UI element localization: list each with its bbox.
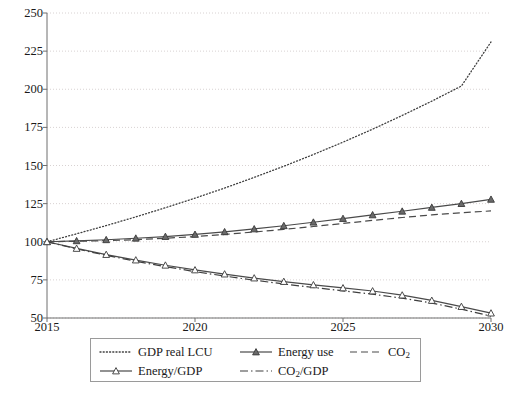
dotted-line-key — [99, 345, 133, 359]
legend-item-label: GDP real LCU — [138, 346, 213, 359]
y-tick-label-250: 250 — [3, 7, 43, 20]
legend-item-0[interactable]: GDP real LCU — [99, 343, 213, 361]
legend-item-label: Energy/GDP — [138, 365, 202, 378]
dashed-key-glyph — [349, 345, 383, 359]
series-line-0 — [47, 42, 491, 242]
y-tick-label-100: 100 — [3, 236, 43, 249]
y-tick-label-200: 200 — [3, 83, 43, 96]
x-tick-marks-group — [47, 318, 491, 322]
y-tick-label-150: 150 — [3, 159, 43, 172]
legend-label-text: CO — [388, 345, 405, 359]
x-tick-label-2015: 2015 — [35, 321, 60, 334]
solid-filled-triangle-key — [239, 345, 273, 359]
dash-dot-key-glyph — [239, 364, 273, 378]
solid-key-glyph — [239, 345, 273, 359]
legend-item-label: CO2 — [388, 346, 410, 359]
series-line-4 — [47, 242, 491, 316]
x-tick-label-2025: 2025 — [331, 321, 356, 334]
y-tick-marks-group — [43, 13, 47, 318]
legend-item-label: Energy use — [278, 346, 334, 359]
legend-label-subscript: 2 — [405, 350, 410, 360]
legend-item-3[interactable]: Energy/GDP — [99, 362, 202, 380]
solid-open-triangle-key — [99, 364, 133, 378]
series-line-1 — [47, 199, 491, 241]
y-axis-tick-labels: 2502252001751501251007550 — [0, 0, 43, 335]
y-tick-label-75: 75 — [3, 274, 43, 287]
legend-label-text: CO — [278, 364, 295, 378]
dashed-line-key — [349, 345, 383, 359]
series-line-3 — [47, 242, 491, 313]
legend-label-subscript: 2 — [295, 369, 300, 379]
legend-item-4[interactable]: CO2/GDP — [239, 362, 328, 380]
chart-legend: GDP real LCUEnergy useCO2Energy/GDPCO2/G… — [90, 338, 421, 382]
data-series-group — [47, 42, 491, 316]
y-tick-label-225: 225 — [3, 45, 43, 58]
y-tick-label-125: 125 — [3, 197, 43, 210]
legend-label-text: Energy use — [278, 345, 334, 359]
dotted-key-glyph — [99, 345, 133, 359]
legend-label-suffix: /GDP — [300, 364, 328, 378]
legend-label-text: Energy/GDP — [138, 364, 202, 378]
dash-dot-line-key — [239, 364, 273, 378]
chart-canvas — [0, 0, 511, 335]
series-line-2 — [47, 211, 491, 242]
gridlines-group — [47, 13, 491, 318]
legend-item-1[interactable]: Energy use — [239, 343, 334, 361]
chart-figure: 2502252001751501251007550 20152020202520… — [0, 0, 511, 399]
solid-key-glyph — [99, 364, 133, 378]
legend-items-container: GDP real LCUEnergy useCO2Energy/GDPCO2/G… — [91, 339, 420, 381]
legend-item-label: CO2/GDP — [278, 365, 328, 378]
x-tick-label-2030: 2030 — [479, 321, 504, 334]
chart-plot-area: 2502252001751501251007550 20152020202520… — [0, 0, 511, 335]
x-tick-label-2020: 2020 — [183, 321, 208, 334]
legend-label-text: GDP real LCU — [138, 345, 213, 359]
y-tick-label-175: 175 — [3, 121, 43, 134]
legend-item-2[interactable]: CO2 — [349, 343, 410, 361]
